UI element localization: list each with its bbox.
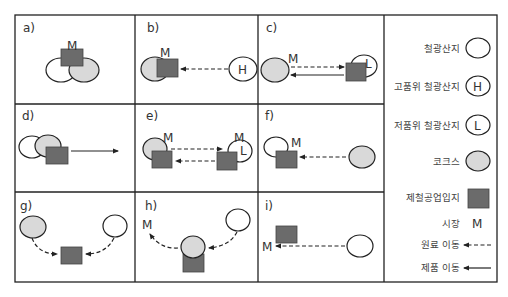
ore-circle-icon — [466, 38, 490, 58]
factory-square — [152, 151, 172, 168]
panel-i: i) M — [262, 199, 373, 257]
panel-label: d) — [22, 109, 34, 123]
panel-label: g) — [20, 199, 32, 213]
market-label: M — [288, 52, 298, 66]
panel-label: a) — [23, 21, 35, 35]
legend-label-factory: 제철공업입지 — [406, 192, 460, 203]
legend-label-product-movement: 제품 이동 — [421, 262, 460, 273]
factory-square — [217, 152, 237, 170]
panel-b: b) M H — [141, 21, 257, 81]
panel-f: f) M — [264, 109, 375, 168]
market-label-left: M — [163, 131, 173, 145]
panel-c: c) M L — [261, 21, 377, 82]
ore-mark: L — [240, 144, 247, 158]
market-label: M — [142, 218, 152, 232]
coke-circle-icon — [466, 151, 490, 171]
coke-circle — [181, 236, 205, 258]
coke-circle — [20, 216, 46, 238]
ore-mark: L — [365, 57, 372, 71]
panel-label: i) — [265, 199, 273, 213]
ore-circle — [347, 235, 373, 257]
market-label: M — [67, 39, 77, 53]
ore-circle — [103, 215, 127, 237]
factory-square — [276, 226, 297, 243]
ore-mark: H — [238, 63, 247, 77]
panel-e: e) M M L — [143, 109, 252, 170]
factory-square-icon — [468, 189, 489, 208]
coke-circle — [261, 58, 289, 82]
panel-a: a) M — [23, 21, 99, 82]
panel-label: c) — [266, 21, 277, 35]
panel-g: g) — [20, 199, 127, 264]
legend-label-coke: 코크스 — [433, 156, 460, 167]
panel-h: h) M — [142, 199, 250, 272]
factory-square — [46, 147, 68, 164]
dashed-arrow — [209, 232, 237, 248]
market-label: M — [160, 46, 170, 60]
dashed-arrow — [86, 238, 114, 254]
legend-label-raw-material-movement: 원료 이동 — [421, 239, 460, 250]
legend-mark-M: M — [472, 217, 482, 231]
factory-square — [157, 59, 178, 77]
panel-label: e) — [146, 109, 158, 123]
market-label-right: M — [234, 131, 244, 145]
panel-label: f) — [265, 109, 274, 123]
dashed-arrow — [32, 238, 57, 254]
coke-circle — [349, 146, 375, 168]
panel-label: b) — [147, 21, 159, 35]
legend-label-market: 시장 — [442, 218, 460, 229]
legend-label-low-grade-ore: 저품위 철광산지 — [394, 120, 460, 131]
legend-mark-H: H — [473, 80, 482, 94]
factory-square — [346, 63, 366, 81]
factory-square — [276, 151, 297, 168]
legend: 철광산지 고품위 철광산지 H 저품위 철광산지 L 코크스 제철공업입지 시장… — [394, 38, 491, 273]
legend-label-ore: 철광산지 — [424, 43, 460, 54]
panel-d: d) — [19, 109, 118, 164]
legend-label-high-grade-ore: 고품위 철광산지 — [394, 81, 460, 92]
market-label: M — [291, 136, 301, 150]
factory-square — [61, 247, 82, 264]
dashed-arrow — [150, 234, 178, 248]
panel-label: h) — [145, 199, 157, 213]
legend-mark-L: L — [474, 119, 481, 133]
iron-industry-location-diagram: a) M b) M H c) M L d) e) M — [0, 0, 508, 297]
market-label: M — [262, 240, 272, 254]
ore-circle — [226, 209, 250, 231]
